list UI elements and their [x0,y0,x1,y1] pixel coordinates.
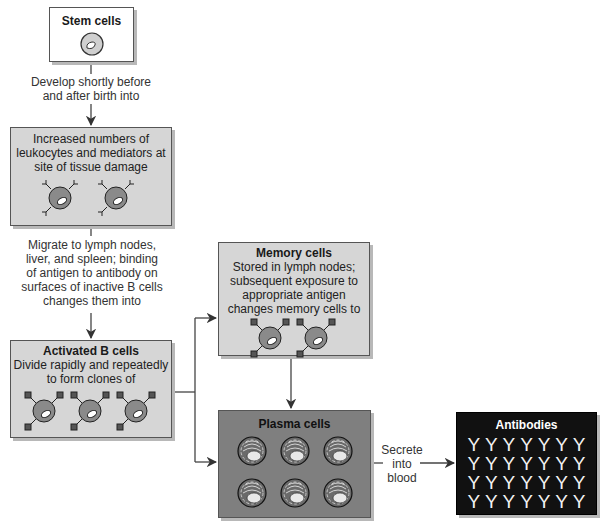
node-text: subsequent exposure to [219,274,369,288]
plasma-cells-icon [225,431,365,515]
node-text: changes memory cells to [219,302,369,316]
antibody-icon: Y [570,473,588,492]
stem-cell-icon [78,30,106,58]
antibody-icon: Y [535,435,553,454]
edge-label-develop: Develop shortly before and after birth i… [20,75,162,103]
label-line: into [378,457,426,471]
antibody-icon: Y [535,454,553,473]
node-title: Stem cells [50,14,133,28]
antibody-grid: YYYYYYY YYYYYYY YYYYYYY YYYYYYY [465,435,588,511]
label-line: of antigen to antibody on [14,266,170,280]
antibody-icon: Y [500,435,518,454]
antibody-icon: Y [483,435,501,454]
antibody-icon: Y [570,454,588,473]
label-line: Migrate to lymph nodes, [14,238,170,252]
antibody-icon: Y [518,435,536,454]
node-title: Antibodies [457,418,596,432]
node-title: Activated B cells [11,344,171,358]
antibody-icon: Y [570,435,588,454]
node-plasma-cells: Plasma cells [218,410,371,518]
antibody-icon: Y [483,473,501,492]
node-text: Increased numbers of [11,132,171,146]
label-line: surfaces of inactive B cells [14,280,170,294]
node-text: appropriate antigen [219,288,369,302]
antibody-icon: Y [500,492,518,511]
node-memory-cells: Memory cells Stored in lymph nodes; subs… [218,242,370,356]
node-text: Stored in lymph nodes; [219,260,369,274]
node-leukocytes: Increased numbers of leukocytes and medi… [10,127,172,226]
label-line: Secrete [378,443,426,457]
antibody-icon: Y [553,492,571,511]
node-title: Memory cells [219,246,369,260]
label-line: blood [378,471,426,485]
antibody-icon: Y [535,473,553,492]
node-text: site of tissue damage [11,160,171,174]
edge-label-secrete: Secrete into blood [378,443,426,485]
node-text: Divide rapidly and repeatedly [11,358,171,372]
antibody-icon: Y [518,473,536,492]
node-stem-cells: Stem cells [49,7,134,62]
node-antibodies: Antibodies YYYYYYY YYYYYYY YYYYYYY YYYYY… [456,412,597,515]
node-activated-b-cells: Activated B cells Divide rapidly and rep… [10,340,172,438]
antibody-icon: Y [465,473,483,492]
label-line: changes them into [14,294,170,308]
label-line: and after birth into [20,89,162,103]
antibody-icon: Y [553,454,571,473]
antibody-icon: Y [500,454,518,473]
node-title: Plasma cells [219,417,370,431]
antibody-icon: Y [483,492,501,511]
node-text: to form clones of [11,372,171,386]
antibody-icon: Y [465,435,483,454]
node-text: leukocytes and mediators at [11,146,171,160]
antibody-icon: Y [465,492,483,511]
antibody-icon: Y [553,435,571,454]
antibody-icon: Y [518,492,536,511]
antibody-icon: Y [570,492,588,511]
memory-cells-icon [244,316,344,358]
leukocyte-cells-icon [36,176,146,220]
antibody-icon: Y [465,454,483,473]
antibody-icon: Y [535,492,553,511]
antibody-icon: Y [500,473,518,492]
antibody-icon: Y [483,454,501,473]
antibody-icon: Y [518,454,536,473]
activated-b-cells-icon [16,387,166,433]
label-line: Develop shortly before [20,75,162,89]
edge-label-migrate: Migrate to lymph nodes, liver, and splee… [14,238,170,308]
label-line: liver, and spleen; binding [14,252,170,266]
antibody-icon: Y [553,473,571,492]
